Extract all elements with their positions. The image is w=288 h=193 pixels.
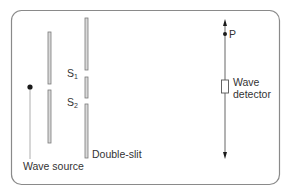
wave-source [27, 84, 32, 159]
arrow-down-icon [223, 152, 227, 159]
first-barrier-lower [48, 90, 51, 143]
double-slit-diagram: S1 S2 P Wave detector Wave source Double… [0, 0, 288, 193]
wave-source-dot-icon [27, 84, 32, 89]
wave-source-label: Wave source [23, 160, 84, 172]
point-p-label: P [229, 28, 236, 40]
double-slit-barrier [85, 18, 88, 158]
slit-1-label: S1 [67, 67, 78, 80]
double-slit-upper [85, 18, 88, 70]
point-p-dot-icon [223, 32, 227, 36]
double-slit-lower [85, 104, 88, 158]
wave-detector-label-line1: Wave [233, 76, 260, 88]
wave-detector-box [222, 80, 229, 93]
wave-detector-label-line2: detector [233, 88, 271, 100]
slit-2-label: S2 [67, 96, 78, 109]
first-barrier-upper [48, 32, 51, 84]
arrow-up-icon [223, 19, 227, 26]
first-barrier [48, 32, 51, 143]
double-slit-middle [85, 77, 88, 98]
double-slit-label: Double-slit [92, 148, 142, 160]
